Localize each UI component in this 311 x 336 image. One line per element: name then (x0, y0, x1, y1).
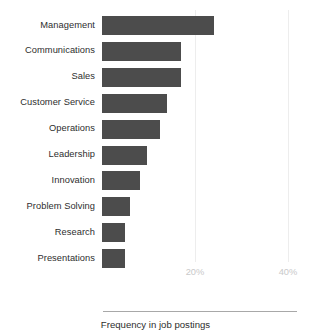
category-label: Problem Solving (27, 202, 95, 211)
bar (102, 120, 160, 139)
bar-row: Problem Solving (0, 197, 311, 216)
category-label: Innovation (52, 176, 95, 185)
bar-row: Sales (0, 68, 311, 87)
bar-row: Innovation (0, 171, 311, 190)
bar-row: Management (0, 16, 311, 35)
bar-row: Leadership (0, 146, 311, 165)
category-label: Communications (25, 47, 95, 56)
bar (102, 146, 147, 165)
bar-chart: ManagementCommunicationsSalesCustomer Se… (0, 0, 311, 336)
x-axis-title: Frequency in job postings (0, 320, 311, 330)
bar-row: Operations (0, 120, 311, 139)
bar-row: Communications (0, 42, 311, 61)
tick-label: 40% (279, 268, 298, 277)
bar (102, 42, 181, 61)
bar (102, 16, 214, 35)
tick-label: 20% (186, 268, 205, 277)
bar-row: Research (0, 223, 311, 242)
bar (102, 249, 125, 268)
category-label: Management (40, 21, 95, 30)
bar-row: Customer Service (0, 94, 311, 113)
category-label: Presentations (38, 254, 96, 263)
bar (102, 223, 125, 242)
category-label: Research (55, 228, 95, 237)
bar (102, 94, 167, 113)
x-axis-line (103, 311, 297, 312)
bar (102, 197, 130, 216)
category-label: Operations (49, 124, 95, 133)
bar-row: Presentations (0, 249, 311, 268)
bar (102, 68, 181, 87)
category-label: Customer Service (20, 99, 95, 108)
category-label: Sales (71, 73, 95, 82)
bar (102, 171, 140, 190)
category-label: Leadership (48, 150, 95, 159)
